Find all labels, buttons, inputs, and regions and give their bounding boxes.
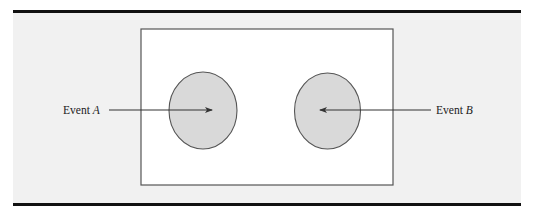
event-a-label-prefix: Event [63,104,93,116]
event-a-label: Event A [63,104,101,116]
event-b-circle [295,73,361,149]
event-b-label: Event B [436,104,473,116]
event-b-label-prefix: Event [436,104,466,116]
event-b-label-var: B [466,104,473,116]
venn-diagram: Event A Event B [0,0,534,212]
event-a-label-var: A [92,104,101,116]
